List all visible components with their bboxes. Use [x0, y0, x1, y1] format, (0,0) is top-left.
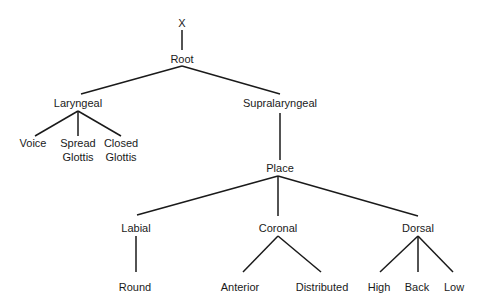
node-x: X: [178, 17, 186, 29]
edge-coronal-distributed: [278, 236, 321, 272]
edge-place-dorsal: [278, 176, 418, 216]
edge-laryngeal-closed_glottis: [78, 111, 121, 136]
feature-geometry-tree: XRootLaryngealSupralaryngealVoiceSpreadG…: [0, 0, 482, 304]
edge-coronal-anterior: [243, 236, 278, 272]
node-coronal: Coronal: [259, 222, 298, 234]
node-dorsal: Dorsal: [402, 222, 434, 234]
node-low: Low: [444, 281, 464, 293]
node-high: High: [368, 281, 391, 293]
edge-root-supralaryngeal: [182, 66, 280, 94]
edge-dorsal-high: [380, 236, 418, 272]
node-laryngeal: Laryngeal: [54, 97, 102, 109]
node-round: Round: [119, 281, 151, 293]
node-supralaryngeal: Supralaryngeal: [243, 97, 317, 109]
edge-laryngeal-voice: [35, 111, 78, 136]
node-anterior: Anterior: [221, 281, 260, 293]
tree-nodes: XRootLaryngealSupralaryngealVoiceSpreadG…: [20, 17, 465, 293]
edge-place-labial: [137, 176, 278, 215]
node-closed-glottis: Closed: [104, 137, 138, 149]
node-place: Place: [266, 162, 294, 174]
node-spread-glottis-line2: Glottis: [62, 151, 94, 163]
edge-dorsal-low: [418, 236, 453, 272]
node-distributed: Distributed: [296, 281, 349, 293]
node-labial: Labial: [121, 222, 150, 234]
node-root: Root: [170, 53, 193, 65]
tree-edges: [35, 30, 453, 272]
node-voice: Voice: [20, 137, 47, 149]
node-back: Back: [405, 281, 430, 293]
node-spread-glottis: Spread: [60, 137, 95, 149]
node-closed-glottis-line2: Glottis: [105, 151, 137, 163]
edge-root-laryngeal: [81, 66, 182, 94]
